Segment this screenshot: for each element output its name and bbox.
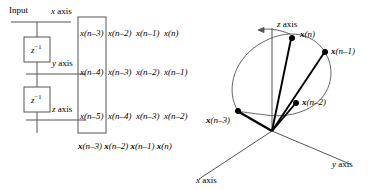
matrix-row-x-inside: x(n–3) [80,29,104,38]
vector-label-x-n-3-arg: (n–3) [211,115,231,125]
direction-arrow-head [258,27,264,32]
caption-vector-3: x(n–1) [131,141,155,151]
delay-block-1-label: z−1 [31,44,41,55]
matrix-row-z-outside-3: x(n–2) [164,112,188,121]
caption-vector-3-arg: (n–1) [135,141,155,151]
matrix-row-y-outside-1: x(n–3) [108,68,132,77]
vector-tip-x-n-1 [322,49,327,54]
matrix-row-z-inside: x(n–5) [80,112,104,121]
axis-label-z-suffix: axis [281,19,298,29]
matrix-row-z-outside-1: x(n–4) [108,112,132,121]
axis-label-z: z axis [277,20,297,29]
vector-label-x-n-2: x(n–2) [302,98,326,107]
vector-label-x-n-2-arg: (n–2) [307,97,327,107]
matrix-row-y-outside-3: x(n–1) [164,68,188,77]
tap-label-x-suffix: axis [55,6,72,16]
axis-line-x [199,131,272,179]
tap-label-z-axis: z axis [52,105,72,114]
matrix-row-x-outside-2: x(n–1) [136,29,160,38]
vector-tip-x-n-2 [293,100,298,105]
axis-label-x: x axis [196,176,217,185]
matrix-row-z-outside-2: x(n–3) [136,112,160,121]
delay-line-group [11,22,86,133]
matrix-row-x-outside-3: x(n) [164,29,179,38]
tap-label-y-suffix: axis [56,58,73,68]
input-label: Input [9,6,28,15]
delay-block-2-exponent: −1 [35,93,42,100]
axis-label-y-suffix: axis [336,159,353,169]
caption-vector-4: x(n) [157,141,172,151]
caption-vector-4-arg: (n) [161,141,172,151]
vector-label-x-n-arg: (n) [305,29,316,39]
tap-label-x-axis: x axis [51,7,72,16]
matrix-row-y-outside-2: x(n–2) [136,68,160,77]
vector-label-x-n-1-arg: (n–1) [336,46,356,56]
axis-label-y: y axis [332,160,353,169]
delay-block-1-exponent: −1 [35,43,42,50]
caption-vector-1: x(n–3) [78,141,102,151]
delay-block-2-label: z−1 [31,94,41,105]
axis-label-x-suffix: axis [200,175,217,185]
state-vectors-group [235,35,327,131]
caption-vector-1-arg: (n–3) [83,141,103,151]
caption-vector-2-arg: (n–2) [109,141,129,151]
direction-arrow-shaft [260,29,290,34]
caption-vector-2: x(n–2) [104,141,128,151]
matrix-column-caption: x(n–3) x(n–2) x(n–1) x(n) [78,142,172,151]
figure-root: Input x axis y axis z axis z−1 z−1 x(n–3… [0,0,368,190]
vector-label-x-n-1: x(n–1) [331,47,355,56]
tap-label-z-suffix: axis [56,104,73,114]
vector-tip-x-n [289,35,294,40]
vector-label-x-n-3: x(n–3) [206,116,230,125]
vector-tip-x-n-3 [235,108,240,113]
tap-label-y-axis: y axis [52,59,73,68]
matrix-row-y-inside: x(n–4) [80,68,104,77]
matrix-row-x-outside-1: x(n–2) [108,29,132,38]
vector-label-x-n: x(n) [300,30,315,39]
